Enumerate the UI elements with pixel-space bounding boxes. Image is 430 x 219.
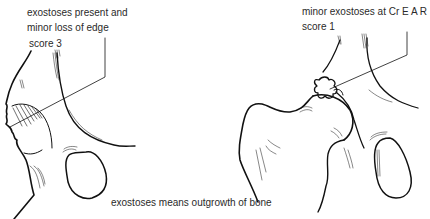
right-annotation-score: score 1 [302,20,335,34]
left-annotation-score: score 3 [29,37,62,51]
footnote-definition: exostoses means outgrowth of bone [111,196,272,210]
left-annotation-line-2: minor loss of edge [27,21,109,35]
right-annotation-line-1: minor exostoses at Cr E A R [302,5,427,19]
right-hip-figure [239,32,418,212]
left-hip-figure [6,38,135,219]
left-annotation-line-1: exostoses present and [27,6,128,20]
